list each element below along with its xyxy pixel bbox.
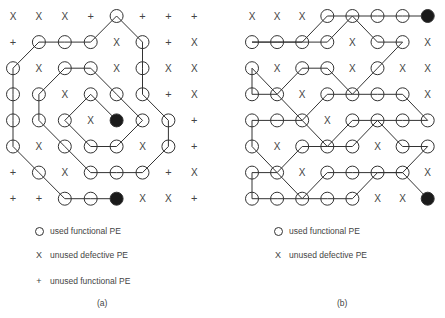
unused-defective-pe-node: X — [113, 63, 120, 74]
unused-defective-pe-node: X — [36, 63, 43, 74]
unused-functional-pe-node: + — [36, 192, 42, 204]
legend-label: used functional PE — [289, 226, 360, 236]
unused-defective-pe-node: X — [139, 193, 146, 204]
unused-defective-pe-node: X — [374, 193, 381, 204]
interconnect-path — [252, 16, 428, 199]
unused-defective-pe-node: X — [61, 167, 68, 178]
unused-defective-pe-node: X — [424, 167, 431, 178]
unused-functional-pe-node: + — [191, 192, 197, 204]
unused-defective-pe-node: X — [299, 11, 306, 22]
unused-functional-pe-node: + — [10, 36, 16, 48]
unused-defective-pe-node: X — [399, 63, 406, 74]
unused-defective-pe-node: X — [274, 141, 281, 152]
unused-defective-pe-node: X — [36, 11, 43, 22]
unused-functional-pe-node: + — [165, 10, 171, 22]
unused-defective-pe-node: X — [374, 141, 381, 152]
unused-functional-pe-node: + — [87, 10, 93, 22]
caption-a: (a) — [97, 298, 107, 308]
legend-b-unused-defective: X unused defective PE — [272, 250, 367, 260]
unused-defective-pe-node: X — [299, 167, 306, 178]
unused-defective-pe-icon: X — [272, 250, 284, 260]
unused-defective-pe-node: X — [399, 193, 406, 204]
unused-defective-pe-node: X — [349, 63, 356, 74]
unused-defective-pe-node: X — [36, 141, 43, 152]
legend-a-used-functional: used functional PE — [33, 226, 121, 236]
unused-defective-pe-node: X — [191, 89, 198, 100]
unused-defective-pe-node: X — [424, 63, 431, 74]
unused-functional-pe-node: + — [191, 140, 197, 152]
panel-a: XXX+++++X+XXXXXX+XX+XX++X+X++XX+ — [7, 10, 198, 206]
unused-functional-pe-node: + — [165, 88, 171, 100]
unused-functional-pe-node: + — [10, 192, 16, 204]
unused-functional-pe-node: + — [139, 10, 145, 22]
unused-defective-pe-node: X — [274, 63, 281, 74]
unused-functional-pe-node: + — [165, 36, 171, 48]
terminal-pe-node — [421, 192, 434, 205]
legend-b-used-functional: used functional PE — [272, 226, 360, 236]
unused-defective-pe-node: X — [61, 89, 68, 100]
used-functional-pe-icon — [33, 227, 45, 236]
unused-defective-pe-node: X — [113, 37, 120, 48]
pe-array-figure: XXX+++++X+XXXXXX+XX+XX++X+X++XX+XXXXXXXX… — [0, 0, 445, 318]
caption-b: (b) — [337, 298, 347, 308]
unused-defective-pe-node: X — [349, 37, 356, 48]
legend-a-unused-defective: X unused defective PE — [33, 250, 128, 260]
interconnect-path — [13, 16, 168, 199]
unused-functional-pe-node: + — [10, 166, 16, 178]
legend-label: unused defective PE — [289, 250, 367, 260]
legend-label: unused defective PE — [50, 250, 128, 260]
used-functional-pe-icon — [272, 227, 284, 236]
terminal-pe-node — [110, 114, 123, 127]
unused-defective-pe-icon: X — [33, 250, 45, 260]
unused-defective-pe-node: X — [165, 193, 172, 204]
unused-defective-pe-node: X — [87, 115, 94, 126]
unused-functional-pe-node: + — [165, 166, 171, 178]
unused-functional-pe-node: + — [191, 114, 197, 126]
unused-defective-pe-node: X — [324, 115, 331, 126]
unused-functional-pe-node: + — [191, 10, 197, 22]
terminal-pe-node — [110, 192, 123, 205]
unused-functional-pe-icon: + — [33, 276, 45, 286]
unused-defective-pe-node: X — [139, 141, 146, 152]
legend-label: unused functional PE — [50, 276, 130, 286]
terminal-pe-node — [421, 10, 434, 23]
unused-defective-pe-node: X — [191, 63, 198, 74]
unused-defective-pe-node: X — [191, 37, 198, 48]
panel-b: XXXXXXXXXXXXXXXXXX — [246, 10, 435, 206]
unused-defective-pe-node: X — [424, 37, 431, 48]
legend-a-unused-functional: + unused functional PE — [33, 276, 130, 286]
unused-defective-pe-node: X — [274, 11, 281, 22]
unused-defective-pe-node: X — [249, 11, 256, 22]
unused-defective-pe-node: X — [299, 89, 306, 100]
unused-defective-pe-node: X — [10, 11, 17, 22]
unused-defective-pe-node: X — [165, 63, 172, 74]
legend-label: used functional PE — [50, 226, 121, 236]
unused-defective-pe-node: X — [61, 11, 68, 22]
unused-defective-pe-node: X — [424, 89, 431, 100]
unused-defective-pe-node: X — [191, 167, 198, 178]
